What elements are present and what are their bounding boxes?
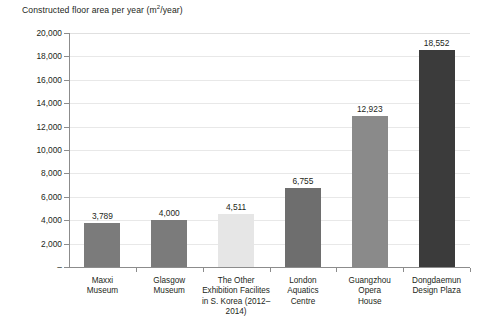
y-axis-tick-label: 12,000 [4, 122, 62, 132]
y-axis-tick-mark [64, 150, 69, 151]
plot-area [69, 33, 470, 267]
category-label-line: Exhibition Facilites [201, 286, 272, 296]
x-axis-category-label: GlasgowMuseum [134, 276, 205, 297]
gridline [69, 197, 470, 198]
category-label-line: London [268, 276, 339, 286]
bar[interactable] [84, 223, 120, 267]
category-label-line: Dongdaemun [401, 276, 472, 286]
y-axis-tick-mark [64, 127, 69, 128]
category-label-line: Aquatics [268, 286, 339, 296]
x-axis-tick-mark [336, 268, 337, 272]
y-axis-tick-mark [64, 197, 69, 198]
x-axis-category-label: GuangzhouOperaHouse [334, 276, 405, 307]
bar[interactable] [285, 188, 321, 267]
gridline [69, 244, 470, 245]
gridline [69, 80, 470, 81]
y-axis-tick-label: 2,000 [4, 239, 62, 249]
y-axis-tick-mark [64, 267, 69, 268]
y-axis-tick-mark [64, 244, 69, 245]
category-label-line: 2014) [201, 307, 272, 317]
bar-value-label: 18,552 [397, 38, 477, 48]
bar-value-label: 6,755 [263, 176, 343, 186]
x-axis-tick-mark [203, 268, 204, 272]
y-axis-tick-label: 14,000 [4, 98, 62, 108]
bar[interactable] [419, 50, 455, 267]
gridline [69, 103, 470, 104]
gridline [69, 173, 470, 174]
category-label-line: Glasgow [134, 276, 205, 286]
x-axis-category-label: MaxxiMuseum [67, 276, 138, 297]
gridline [69, 56, 470, 57]
bar[interactable] [151, 220, 187, 267]
x-axis-tick-mark [403, 268, 404, 272]
x-axis-tick-mark [136, 268, 137, 272]
y-axis-tick-label: 10,000 [4, 145, 62, 155]
category-label-line: House [334, 297, 405, 307]
bar-chart: Constructed floor area per year (m2/year… [0, 0, 478, 336]
gridline [69, 33, 470, 34]
chart-title-tail: /year) [160, 5, 183, 15]
category-label-line: Maxxi [67, 276, 138, 286]
category-label-line: in S. Korea (2012– [201, 297, 272, 307]
y-axis-labels: 20,00018,00016,00014,00012,00010,0008,00… [0, 0, 62, 336]
bar-value-label: 12,923 [330, 104, 410, 114]
gridline [69, 150, 470, 151]
x-axis-category-label: LondonAquaticsCentre [268, 276, 339, 307]
x-axis-tick-mark [470, 268, 471, 272]
y-axis-line [69, 33, 70, 268]
y-axis-tick-label: 18,000 [4, 51, 62, 61]
category-label-line: Museum [134, 286, 205, 296]
y-axis-tick-label: 8,000 [4, 168, 62, 178]
gridline [69, 127, 470, 128]
y-axis-tick-mark [64, 80, 69, 81]
x-axis-category-label: The OtherExhibition Facilitesin S. Korea… [201, 276, 272, 318]
category-label-line: Centre [268, 297, 339, 307]
y-axis-tick-mark [64, 33, 69, 34]
x-axis-tick-mark [270, 268, 271, 272]
y-axis-tick-label: – [4, 262, 62, 272]
bar[interactable] [218, 214, 254, 267]
y-axis-tick-label: 4,000 [4, 215, 62, 225]
y-axis-tick-mark [64, 56, 69, 57]
y-axis-tick-label: 6,000 [4, 192, 62, 202]
y-axis-tick-label: 20,000 [4, 28, 62, 38]
y-axis-tick-mark [64, 103, 69, 104]
category-label-line: Opera [334, 286, 405, 296]
category-label-line: Museum [67, 286, 138, 296]
x-axis-category-label: DongdaemunDesign Plaza [401, 276, 472, 297]
category-label-line: The Other [201, 276, 272, 286]
category-label-line: Design Plaza [401, 286, 472, 296]
y-axis-tick-mark [64, 173, 69, 174]
category-label-line: Guangzhou [334, 276, 405, 286]
bar[interactable] [352, 116, 388, 267]
y-axis-tick-label: 16,000 [4, 75, 62, 85]
bar-value-label: 4,511 [196, 202, 276, 212]
